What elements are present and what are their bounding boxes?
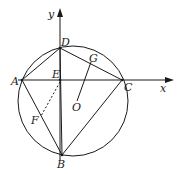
segment-AB	[22, 80, 62, 155]
segment-OG	[77, 62, 91, 101]
label-O: O	[72, 101, 81, 114]
label-B: B	[56, 158, 65, 171]
x-axis-arrow-icon	[165, 77, 174, 83]
point-B-dot	[61, 154, 64, 157]
x-axis-label: x	[160, 82, 167, 95]
y-axis-arrow-icon	[57, 8, 63, 17]
point-A-dot	[21, 79, 24, 82]
segment-EF-dashed	[41, 82, 60, 116]
geometry-diagram: y x D A E C G O F B	[0, 0, 184, 174]
label-E: E	[51, 68, 60, 81]
y-axis-label: y	[47, 8, 55, 21]
label-G: G	[89, 52, 98, 65]
point-C-dot	[121, 79, 124, 82]
label-F: F	[30, 114, 39, 127]
label-D: D	[60, 36, 70, 49]
segment-BC	[62, 80, 122, 155]
label-A: A	[10, 75, 19, 88]
label-C: C	[124, 81, 133, 94]
